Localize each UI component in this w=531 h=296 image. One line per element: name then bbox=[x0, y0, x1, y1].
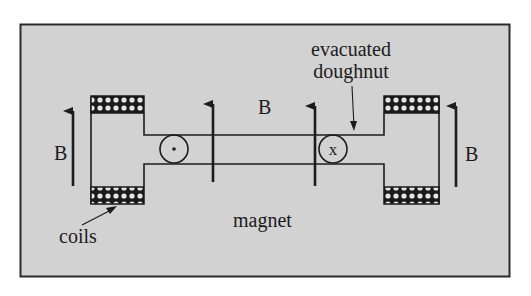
coils-label: coils bbox=[59, 225, 97, 247]
field-label-left: B bbox=[54, 142, 67, 164]
betatron-diagram: x B B B evacuated doughnut coils magnet bbox=[0, 0, 531, 296]
magnet-label: magnet bbox=[233, 209, 292, 232]
doughnut-label-line2: doughnut bbox=[313, 60, 389, 83]
doughnut-label-line1: evacuated bbox=[311, 38, 391, 60]
coil-top-left bbox=[91, 96, 144, 113]
beam-into-page-glyph: x bbox=[329, 140, 338, 159]
field-label-center: B bbox=[258, 96, 271, 118]
field-label-right: B bbox=[465, 143, 478, 165]
coil-bottom-right bbox=[384, 187, 439, 204]
coil-top-right bbox=[384, 96, 439, 113]
coil-bottom-left bbox=[91, 187, 144, 204]
